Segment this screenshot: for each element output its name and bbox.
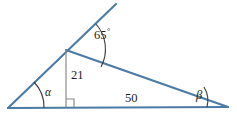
angle-label-65-value: 65 xyxy=(94,28,107,42)
angle-label-65: 65° xyxy=(94,28,110,42)
angle-arc-alpha xyxy=(34,82,44,108)
geometry-figure: 65° 21 50 α β xyxy=(0,0,237,120)
left-slant-ray xyxy=(8,4,116,108)
right-angle-marker xyxy=(66,99,74,107)
angle-label-alpha: α xyxy=(45,87,51,99)
altitude-label: 21 xyxy=(71,69,84,82)
apex-to-right-vertex-line xyxy=(66,50,228,107)
geometry-canvas xyxy=(0,0,237,120)
degree-symbol: ° xyxy=(107,27,110,36)
base-segment-label: 50 xyxy=(125,92,138,105)
base-line xyxy=(8,107,228,108)
angle-arc-beta xyxy=(204,87,208,107)
angle-label-beta: β xyxy=(196,89,202,102)
